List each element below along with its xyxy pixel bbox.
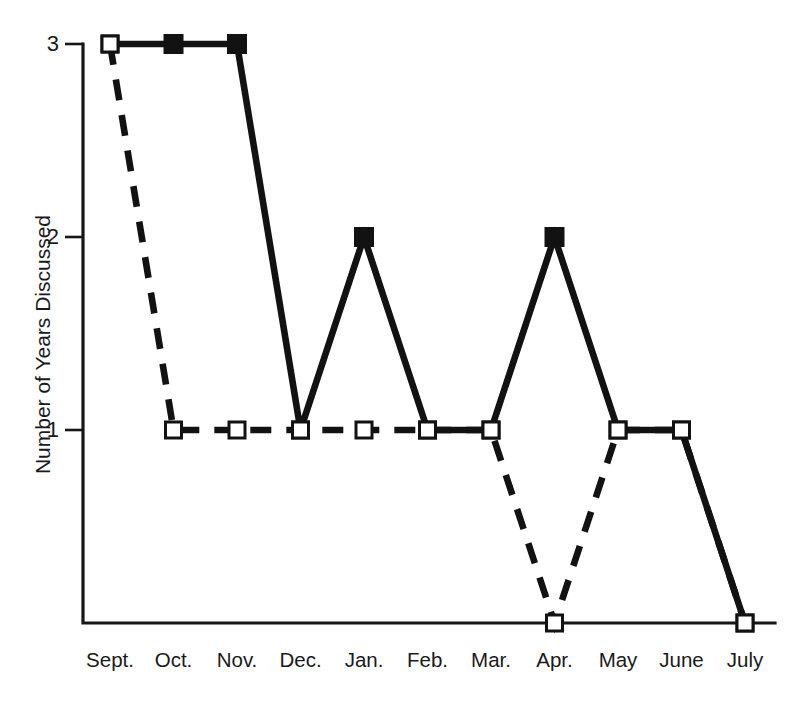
data-point-solid-series-Feb	[420, 422, 436, 438]
y-tick-label-3: 3	[19, 33, 59, 55]
chart-axes	[83, 44, 775, 623]
data-point-dashed-series-Apr	[547, 615, 563, 631]
data-point-dashed-series-Nov	[229, 422, 245, 438]
data-point-solid-series-Mar	[483, 422, 499, 438]
data-point-dashed-series-Jan	[356, 422, 372, 438]
x-tick-label-Jan: Jan.	[345, 650, 384, 671]
data-point-solid-series-June	[674, 422, 690, 438]
chart-tick-marks	[65, 44, 83, 430]
data-point-solid-series-May	[610, 422, 626, 438]
x-tick-label-May: May	[599, 650, 638, 671]
x-tick-label-Dec: Dec.	[279, 650, 321, 671]
chart-axis-lines	[83, 44, 775, 623]
chart-figure: Number of Years Discussed 123 Sept.Oct.N…	[0, 0, 798, 702]
x-tick-label-July: July	[727, 650, 763, 671]
series-line-solid-series	[110, 44, 745, 623]
x-tick-label-Mar: Mar.	[471, 650, 511, 671]
x-tick-label-Sept: Sept.	[86, 650, 134, 671]
x-tick-label-Nov: Nov.	[217, 650, 258, 671]
chart-plot-area	[0, 0, 798, 702]
data-point-solid-series-Apr	[546, 229, 563, 246]
chart-series-markers	[102, 36, 753, 632]
data-point-solid-series-Dec	[293, 422, 309, 438]
data-point-solid-series-Nov	[229, 36, 246, 53]
x-tick-label-Feb: Feb.	[407, 650, 448, 671]
x-tick-label-Oct: Oct.	[155, 650, 193, 671]
y-tick-label-1: 1	[19, 419, 59, 441]
x-tick-label-Apr: Apr.	[536, 650, 572, 671]
data-point-solid-series-Oct	[165, 36, 182, 53]
x-tick-label-June: June	[659, 650, 703, 671]
series-line-dashed-series	[110, 44, 745, 623]
data-point-solid-series-July	[737, 615, 753, 631]
data-point-dashed-series-Oct	[166, 422, 182, 438]
data-point-solid-series-Jan	[356, 229, 373, 246]
chart-series-lines	[110, 44, 745, 623]
y-tick-label-2: 2	[19, 226, 59, 248]
data-point-solid-series-Sept	[102, 36, 118, 52]
